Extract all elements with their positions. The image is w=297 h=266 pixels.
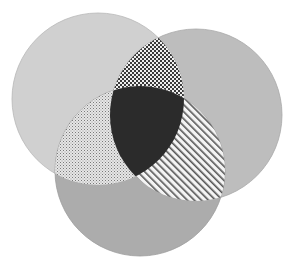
venn-svg — [0, 0, 297, 266]
venn-diagram: venn — [0, 0, 297, 266]
